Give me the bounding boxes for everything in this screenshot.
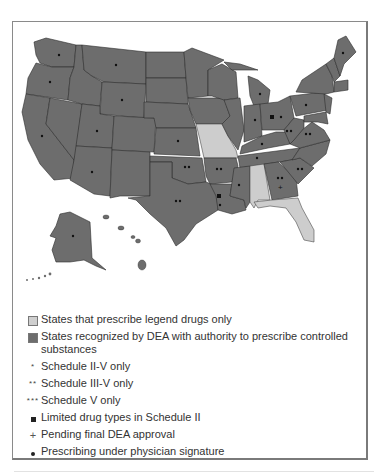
black-square-icon [31, 417, 36, 422]
state-new-mexico [110, 150, 150, 198]
legend-item-physician-signature: Prescribing under physician signature [25, 445, 360, 462]
state-north-dakota [146, 52, 186, 78]
bullet-dot-icon [31, 452, 35, 456]
dark-gray-swatch-icon [28, 333, 38, 343]
us-map: + [0, 0, 377, 320]
single-asterisk-icon: * [31, 363, 35, 371]
legend-item-schedule-ii-v: * Schedule II-V only [25, 360, 360, 377]
state-south-dakota [146, 78, 188, 104]
legend-item-limited-schedule-ii: Limited drug types in Schedule II [25, 411, 360, 428]
legend-item-legend-only: States that prescribe legend drugs only [25, 313, 360, 330]
triple-asterisk-icon: *** [27, 397, 39, 405]
state-alaska [50, 212, 106, 270]
plus-icon: + [30, 431, 36, 440]
light-gray-swatch-icon [28, 316, 38, 326]
legend-item-dea-recognized: States recognized by DEA with authority … [25, 330, 360, 360]
state-kansas [154, 128, 200, 156]
legend-item-pending-dea: + Pending final DEA approval [25, 428, 360, 445]
double-asterisk-icon: ** [29, 380, 37, 388]
state-florida [254, 198, 314, 242]
state-indiana [244, 104, 262, 142]
svg-text:+: + [278, 183, 283, 192]
state-colorado [112, 116, 156, 152]
aleutian-islands [26, 273, 51, 281]
state-michigan [248, 76, 270, 106]
state-new-jersey [324, 94, 332, 114]
divider [14, 471, 374, 472]
state-hawaii [103, 215, 146, 270]
state-iowa [188, 98, 230, 124]
state-massachusetts-ct-ri [334, 80, 348, 92]
legend: States that prescribe legend drugs only … [25, 313, 360, 462]
state-washington [34, 38, 76, 67]
legend-item-schedule-v: *** Schedule V only [25, 394, 360, 411]
state-arizona [70, 146, 112, 196]
legend-item-schedule-iii-v: ** Schedule III-V only [25, 377, 360, 394]
